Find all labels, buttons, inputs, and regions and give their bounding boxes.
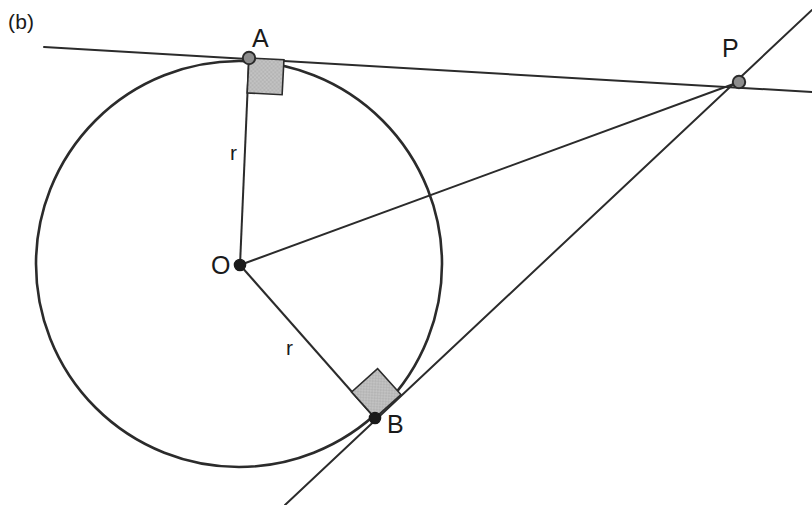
geometry-figure: (b) A B O P r r	[0, 0, 812, 505]
figure-canvas	[0, 0, 812, 505]
point-marker-a	[243, 52, 255, 64]
radius-label-oa: r	[230, 142, 237, 163]
panel-tag: (b)	[8, 11, 34, 32]
point-label-o: O	[211, 253, 230, 278]
point-marker-o	[234, 259, 245, 270]
point-marker-p	[733, 76, 745, 88]
tangent-line-at-a	[44, 47, 812, 92]
point-marker-b	[369, 412, 380, 423]
segment-op	[240, 82, 739, 265]
radius-label-ob: r	[286, 337, 293, 358]
point-label-p: P	[722, 36, 739, 61]
point-label-a: A	[252, 26, 269, 51]
point-label-b: B	[387, 412, 404, 437]
